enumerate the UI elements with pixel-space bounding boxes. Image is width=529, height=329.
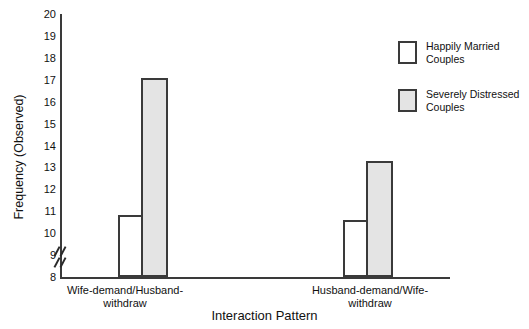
legend-label-happily-married-line1: Happily Married bbox=[426, 40, 529, 53]
x-axis-line bbox=[60, 277, 450, 279]
x-category-label-1-line1: Husband-demand/Wife- bbox=[280, 284, 460, 297]
bar-chart: Frequency (Observed) 2019181716151413121… bbox=[0, 0, 529, 329]
y-tick-label-15: 15 bbox=[10, 119, 56, 130]
y-tick-label-18: 18 bbox=[10, 53, 56, 64]
y-tick-label-11: 11 bbox=[10, 206, 56, 217]
legend-label-severely-distressed: Severely Distressed Couples bbox=[426, 88, 529, 113]
x-category-label-1: Husband-demand/Wife- withdraw bbox=[280, 284, 460, 310]
y-tick-label-8: 8 bbox=[10, 272, 56, 283]
y-tick-label-14: 14 bbox=[10, 141, 56, 152]
legend-label-severely-distressed-line1: Severely Distressed bbox=[426, 88, 529, 101]
legend-label-severely-distressed-line2: Couples bbox=[426, 101, 529, 114]
plot-area bbox=[60, 14, 450, 277]
y-axis-tick-labels: 201918171615141312111098 bbox=[0, 0, 56, 329]
legend: Happily Married Couples Severely Distres… bbox=[398, 40, 529, 136]
y-tick-label-19: 19 bbox=[10, 31, 56, 42]
y-tick-label-20: 20 bbox=[10, 9, 56, 20]
x-category-label-0-line1: Wife-demand/Husband- bbox=[35, 284, 215, 297]
bar-group-0-series-0 bbox=[118, 215, 143, 277]
legend-swatch-severely-distressed bbox=[398, 89, 417, 112]
y-tick-label-12: 12 bbox=[10, 184, 56, 195]
y-tick-label-10: 10 bbox=[10, 228, 56, 239]
legend-label-happily-married: Happily Married Couples bbox=[426, 40, 529, 65]
legend-item-severely-distressed: Severely Distressed Couples bbox=[398, 88, 529, 122]
legend-swatch-happily-married bbox=[398, 41, 417, 64]
x-category-label-0: Wife-demand/Husband- withdraw bbox=[35, 284, 215, 310]
legend-label-happily-married-line2: Couples bbox=[426, 53, 529, 66]
y-tick-label-17: 17 bbox=[10, 75, 56, 86]
bar-group-1-series-0 bbox=[343, 220, 368, 277]
x-axis-title: Interaction Pattern bbox=[0, 308, 529, 323]
y-tick-label-16: 16 bbox=[10, 97, 56, 108]
bar-group-1-series-1 bbox=[366, 161, 393, 277]
y-tick-label-13: 13 bbox=[10, 162, 56, 173]
legend-item-happily-married: Happily Married Couples bbox=[398, 40, 529, 74]
bar-group-0-series-1 bbox=[141, 78, 168, 277]
